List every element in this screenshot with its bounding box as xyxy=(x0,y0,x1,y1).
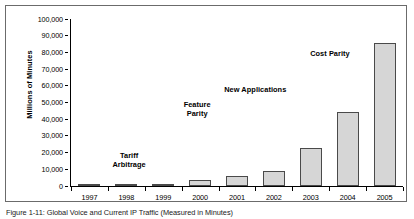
y-axis-tick-label: 30,000 xyxy=(42,131,63,140)
y-axis-tick-mark xyxy=(65,119,68,120)
y-axis-tick: 0 xyxy=(20,182,68,191)
y-axis-tick: 50,000 xyxy=(20,98,68,107)
y-axis-tick-mark xyxy=(65,152,68,153)
x-axis-label: 2000 xyxy=(182,193,219,202)
x-axis-tick-mark xyxy=(71,187,72,191)
y-axis-tick-label: 90,000 xyxy=(42,31,63,40)
chart-annotation: Cost Parity xyxy=(285,49,375,59)
bar[interactable] xyxy=(263,171,285,186)
bar[interactable] xyxy=(337,112,359,186)
x-axis-tick-mark xyxy=(182,187,183,191)
x-axis-tick-mark xyxy=(219,187,220,191)
y-axis-tick-label: 80,000 xyxy=(42,48,63,57)
bar[interactable] xyxy=(374,43,396,186)
x-axis-ticks: 199719981999200020012002200320042005 xyxy=(71,187,403,209)
y-axis-tick-mark xyxy=(65,186,68,187)
figure-caption: Figure 1-11: Global Voice and Current IP… xyxy=(6,208,406,217)
x-axis-label: 1999 xyxy=(145,193,182,202)
y-axis-tick: 70,000 xyxy=(20,65,68,74)
y-axis-tick-mark xyxy=(65,169,68,170)
y-axis-ticks: 010,00020,00030,00040,00050,00060,00070,… xyxy=(20,16,68,186)
y-axis-tick-mark xyxy=(65,102,68,103)
x-axis-label: 2002 xyxy=(255,193,292,202)
x-axis-label: 2004 xyxy=(329,193,366,202)
y-axis-tick: 20,000 xyxy=(20,148,68,157)
y-axis-tick-mark xyxy=(65,19,68,20)
y-axis-tick: 30,000 xyxy=(20,131,68,140)
x-axis-label: 1998 xyxy=(108,193,145,202)
y-axis-tick: 90,000 xyxy=(20,31,68,40)
y-axis-tick-mark xyxy=(65,69,68,70)
chart-annotation: Tariff Arbitrage xyxy=(84,151,174,170)
bar[interactable] xyxy=(152,184,174,187)
y-axis-tick-label: 70,000 xyxy=(42,65,63,74)
x-axis-label: 2005 xyxy=(366,193,403,202)
chart-annotation: New Applications xyxy=(210,85,300,95)
y-axis-tick-mark xyxy=(65,52,68,53)
y-axis-tick-label: 0 xyxy=(59,182,63,191)
y-axis-tick-label: 10,000 xyxy=(42,165,63,174)
y-axis-tick-label: 60,000 xyxy=(42,81,63,90)
y-axis-tick-label: 100,000 xyxy=(38,15,63,24)
y-axis-tick-label: 40,000 xyxy=(42,115,63,124)
figure-container: Millions of Minutes 010,00020,00030,0004… xyxy=(0,0,414,219)
y-axis-tick: 60,000 xyxy=(20,81,68,90)
bar[interactable] xyxy=(115,184,137,186)
plot-area: Tariff ArbitrageFeature ParityNew Applic… xyxy=(71,19,403,186)
x-axis-label: 2001 xyxy=(219,193,256,202)
x-axis-label: 2003 xyxy=(292,193,329,202)
y-axis-tick-label: 50,000 xyxy=(42,98,63,107)
x-axis-tick-mark xyxy=(108,187,109,191)
bar[interactable] xyxy=(300,148,322,186)
x-axis-label: 1997 xyxy=(71,193,108,202)
x-axis-tick-mark xyxy=(145,187,146,191)
y-axis-tick-label: 20,000 xyxy=(42,148,63,157)
bar[interactable] xyxy=(78,184,100,186)
x-axis-tick-mark xyxy=(403,187,404,191)
x-axis-tick-mark xyxy=(255,187,256,191)
y-axis-tick: 10,000 xyxy=(20,165,68,174)
y-axis-tick-mark xyxy=(65,135,68,136)
y-axis-tick-mark xyxy=(65,85,68,86)
y-axis-tick: 100,000 xyxy=(20,15,68,24)
y-axis-tick: 80,000 xyxy=(20,48,68,57)
bar[interactable] xyxy=(226,176,248,186)
x-axis-tick-mark xyxy=(329,187,330,191)
chart-frame: Millions of Minutes 010,00020,00030,0004… xyxy=(5,5,407,202)
chart-annotation: Feature Parity xyxy=(152,100,242,119)
y-axis-tick: 40,000 xyxy=(20,115,68,124)
x-axis-tick-mark xyxy=(366,187,367,191)
bar[interactable] xyxy=(189,180,211,186)
x-axis-tick-mark xyxy=(292,187,293,191)
y-axis-tick-mark xyxy=(65,35,68,36)
